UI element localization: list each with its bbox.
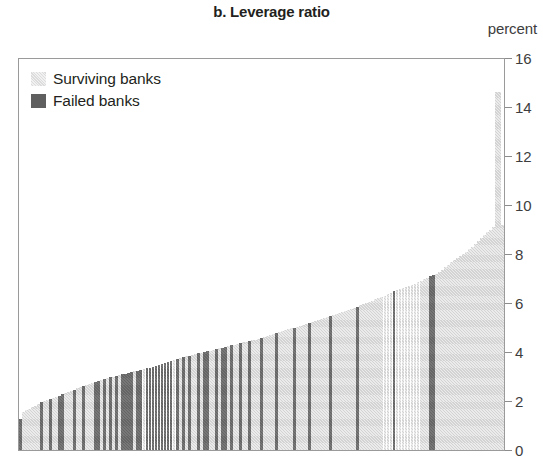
- legend-swatch-surviving-icon: [31, 72, 46, 86]
- bar-surviving: [501, 225, 504, 450]
- y-tick-label: 4: [515, 345, 523, 360]
- y-tick-label: 6: [515, 296, 523, 311]
- page-title: b. Leverage ratio: [0, 3, 543, 20]
- y-tick-label: 8: [515, 247, 523, 262]
- y-tick-label: 14: [515, 100, 532, 115]
- y-tick-label: 16: [515, 51, 532, 66]
- y-tick-mark: [505, 450, 512, 451]
- legend-swatch-failed-icon: [31, 94, 46, 108]
- y-tick-mark: [505, 205, 512, 206]
- y-tick-mark: [505, 401, 512, 402]
- x-axis-line: [18, 450, 505, 451]
- y-tick-label: 12: [515, 149, 532, 164]
- y-tick-mark: [505, 107, 512, 108]
- y-tick-label: 0: [515, 443, 523, 458]
- y-axis-unit-label: percent: [488, 20, 537, 37]
- legend-label-surviving: Surviving banks: [53, 70, 161, 88]
- leverage-ratio-figure: b. Leverage ratio percent 0246810121416 …: [0, 0, 543, 465]
- legend-label-failed: Failed banks: [53, 92, 140, 110]
- y-tick-label: 10: [515, 198, 532, 213]
- y-tick-mark: [505, 254, 512, 255]
- y-tick-mark: [505, 352, 512, 353]
- bar-series-container: [19, 59, 504, 450]
- y-tick-mark: [505, 58, 512, 59]
- legend-item-failed: Failed banks: [31, 90, 161, 112]
- y-tick-mark: [505, 303, 512, 304]
- y-tick-label: 2: [515, 394, 523, 409]
- chart-legend: Surviving banks Failed banks: [31, 68, 161, 112]
- y-tick-mark: [505, 156, 512, 157]
- legend-item-surviving: Surviving banks: [31, 68, 161, 90]
